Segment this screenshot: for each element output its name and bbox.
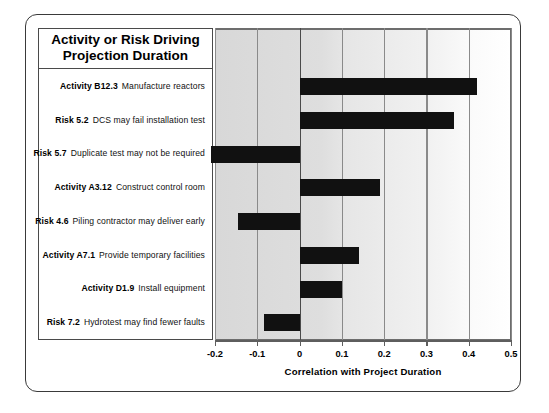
bar-slot: [215, 171, 510, 205]
bar: [264, 314, 300, 331]
x-axis-tick-label: -0.1: [249, 349, 265, 359]
label-column: Activity or Risk Driving Projection Dura…: [38, 28, 213, 340]
x-axis-tick-label: 0.3: [420, 349, 433, 359]
x-axis-tick-mark: [511, 340, 512, 346]
bar-slot: [215, 239, 510, 273]
label-row-list: Activity B12.3Manufacture reactorsRisk 5…: [39, 69, 212, 339]
chart-area: Activity or Risk Driving Projection Dura…: [38, 28, 516, 388]
x-axis-tick-label: 0.1: [335, 349, 348, 359]
gridline: [511, 28, 512, 340]
label-row-id: Activity B12.3: [60, 81, 118, 91]
label-row-description: Piling contractor may deliver early: [73, 216, 205, 226]
x-axis-tick-label: 0.5: [505, 349, 518, 359]
label-row-description: Provide temporary facilities: [99, 250, 205, 260]
x-axis-tick-label: 0.2: [378, 349, 391, 359]
x-axis-tick-mark: [426, 340, 427, 346]
x-axis-tick-mark: [384, 340, 385, 346]
bar: [300, 281, 342, 298]
header-title-line2: Projection Duration: [63, 48, 188, 63]
label-row-description: Manufacture reactors: [122, 81, 205, 91]
bar-slot: [215, 205, 510, 239]
bar: [300, 247, 359, 264]
bar: [300, 78, 478, 95]
x-axis-tick-label: 0.4: [462, 349, 475, 359]
label-row-description: Install equipment: [138, 283, 205, 293]
x-axis-tick-label: 0: [297, 349, 302, 359]
x-axis: -0.2-0.100.10.20.30.40.5 Correlation wit…: [215, 340, 511, 388]
label-row-id: Activity A3.12: [54, 182, 111, 192]
bar: [211, 146, 300, 163]
label-row-description: Hydrotest may find fewer faults: [84, 317, 205, 327]
label-row-description: Duplicate test may not be required: [71, 148, 205, 158]
label-row-id: Risk 7.2: [47, 317, 80, 327]
label-column-header: Activity or Risk Driving Projection Dura…: [39, 29, 212, 69]
bar: [300, 179, 380, 196]
label-row: Activity D1.9Install equipment: [39, 272, 212, 306]
label-row: Activity A7.1Provide temporary facilitie…: [39, 238, 212, 272]
bar-slot: [215, 70, 510, 104]
label-row-id: Activity D1.9: [81, 283, 134, 293]
tornado-chart-page: Activity or Risk Driving Projection Dura…: [0, 0, 549, 413]
bar-series: [215, 28, 510, 340]
x-axis-tick-mark: [215, 340, 216, 346]
bar-slot: [215, 138, 510, 172]
label-row-id: Risk 5.2: [55, 115, 88, 125]
label-row-description: Construct control room: [116, 182, 205, 192]
label-row: Risk 5.2DCS may fail installation test: [39, 103, 212, 137]
label-row: Risk 4.6Piling contractor may deliver ea…: [39, 204, 212, 238]
x-axis-tick-mark: [300, 340, 301, 346]
label-row-id: Risk 4.6: [35, 216, 68, 226]
label-row-id: Activity A7.1: [42, 250, 95, 260]
bar-slot: [215, 273, 510, 307]
bar-slot: [215, 306, 510, 340]
x-axis-line: [215, 340, 511, 342]
plot-area: [215, 28, 511, 340]
label-row-id: Risk 5.7: [33, 148, 66, 158]
x-axis-tick-label: -0.2: [207, 349, 223, 359]
bar-slot: [215, 104, 510, 138]
x-axis-tick-mark: [257, 340, 258, 346]
header-title-line1: Activity or Risk Driving: [51, 32, 200, 47]
x-axis-tick-mark: [469, 340, 470, 346]
label-row: Activity A3.12Construct control room: [39, 170, 212, 204]
bar: [300, 112, 454, 129]
label-row: Activity B12.3Manufacture reactors: [39, 69, 212, 103]
x-axis-tick-mark: [342, 340, 343, 346]
bar: [238, 213, 299, 230]
label-row: Risk 5.7Duplicate test may not be requir…: [39, 137, 212, 171]
label-row-description: DCS may fail installation test: [93, 115, 205, 125]
x-axis-title: Correlation with Project Duration: [215, 366, 511, 377]
label-row: Risk 7.2Hydrotest may find fewer faults: [39, 305, 212, 339]
